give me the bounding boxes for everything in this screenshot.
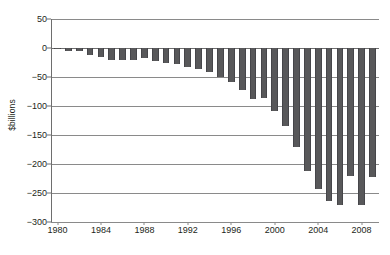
bar <box>130 48 137 60</box>
bar <box>174 48 181 64</box>
y-tick-label: 50 <box>3 14 47 24</box>
bar <box>54 48 61 49</box>
bar <box>98 48 105 57</box>
y-tick-label: −150 <box>3 130 47 140</box>
y-tick-label: −100 <box>3 101 47 111</box>
bar <box>358 48 365 205</box>
bar <box>369 48 376 177</box>
y-tick-label: −200 <box>3 159 47 169</box>
bar <box>250 48 257 99</box>
x-tick-label: 2008 <box>352 225 372 235</box>
y-tick-label: −50 <box>3 72 47 82</box>
bar <box>282 48 289 126</box>
x-axis-tick-labels: 19801984198819921996200020042008 <box>51 225 379 241</box>
y-tick-label: −300 <box>3 217 47 227</box>
x-tick-label: 1980 <box>48 225 68 235</box>
bar <box>184 48 191 67</box>
plot-area <box>51 19 379 222</box>
x-tick-label: 2000 <box>265 225 285 235</box>
bar <box>347 48 354 176</box>
bar <box>87 48 94 55</box>
chart-container: $billions 500−50−100−150−200−250−300 198… <box>0 0 390 255</box>
bar <box>195 48 202 69</box>
y-axis-tick-labels: 500−50−100−150−200−250−300 <box>0 19 47 222</box>
bar <box>108 48 115 60</box>
x-tick-label: 2004 <box>308 225 328 235</box>
bar <box>326 48 333 201</box>
x-tick-label: 1988 <box>134 225 154 235</box>
bar <box>65 48 72 51</box>
bar <box>152 48 159 61</box>
bar <box>293 48 300 147</box>
bar <box>261 48 268 98</box>
bar <box>239 48 246 90</box>
y-tick-label: 0 <box>3 43 47 53</box>
x-tick-label: 1984 <box>91 225 111 235</box>
bar <box>119 48 126 60</box>
x-tick-label: 1996 <box>221 225 241 235</box>
bar <box>337 48 344 205</box>
y-tick-label: −250 <box>3 188 47 198</box>
bar <box>304 48 311 171</box>
bar-series <box>51 19 379 222</box>
bar <box>315 48 322 189</box>
bar <box>271 48 278 111</box>
x-tick-label: 1992 <box>178 225 198 235</box>
bar <box>163 48 170 63</box>
bar <box>228 48 235 82</box>
bar <box>217 48 224 77</box>
bar <box>206 48 213 72</box>
bar <box>76 48 83 51</box>
bar <box>141 48 148 58</box>
